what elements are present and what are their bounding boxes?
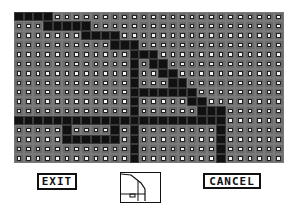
- grid-cell[interactable]: [91, 21, 101, 30]
- pixel-grid[interactable]: [14, 12, 284, 163]
- grid-cell[interactable]: [178, 116, 188, 125]
- grid-cell[interactable]: [139, 154, 149, 163]
- grid-cell[interactable]: [274, 40, 284, 49]
- grid-cell[interactable]: [235, 21, 245, 30]
- grid-cell[interactable]: [120, 116, 130, 125]
- grid-cell[interactable]: [245, 59, 255, 68]
- grid-cell[interactable]: [178, 12, 188, 21]
- grid-cell[interactable]: [81, 40, 91, 49]
- grid-cell[interactable]: [14, 144, 24, 153]
- grid-cell[interactable]: [24, 97, 34, 106]
- grid-cell[interactable]: [149, 21, 159, 30]
- grid-cell[interactable]: [81, 135, 91, 144]
- grid-cell[interactable]: [33, 78, 43, 87]
- grid-cell[interactable]: [139, 78, 149, 87]
- grid-cell[interactable]: [235, 40, 245, 49]
- grid-cell[interactable]: [274, 78, 284, 87]
- grid-cell[interactable]: [207, 59, 217, 68]
- grid-cell[interactable]: [226, 88, 236, 97]
- grid-cell[interactable]: [197, 116, 207, 125]
- grid-cell[interactable]: [91, 40, 101, 49]
- grid-cell[interactable]: [81, 31, 91, 40]
- grid-cell[interactable]: [255, 116, 265, 125]
- grid-cell[interactable]: [178, 88, 188, 97]
- grid-cell[interactable]: [207, 116, 217, 125]
- grid-cell[interactable]: [187, 59, 197, 68]
- grid-cell[interactable]: [235, 135, 245, 144]
- grid-cell[interactable]: [33, 125, 43, 134]
- grid-cell[interactable]: [178, 78, 188, 87]
- grid-cell[interactable]: [110, 116, 120, 125]
- grid-cell[interactable]: [216, 135, 226, 144]
- grid-cell[interactable]: [53, 59, 63, 68]
- grid-cell[interactable]: [14, 125, 24, 134]
- grid-cell[interactable]: [33, 59, 43, 68]
- grid-cell[interactable]: [216, 59, 226, 68]
- grid-cell[interactable]: [33, 40, 43, 49]
- grid-cell[interactable]: [62, 116, 72, 125]
- grid-cell[interactable]: [207, 78, 217, 87]
- grid-cell[interactable]: [168, 31, 178, 40]
- grid-cell[interactable]: [197, 144, 207, 153]
- grid-cell[interactable]: [216, 21, 226, 30]
- grid-cell[interactable]: [197, 31, 207, 40]
- grid-cell[interactable]: [139, 144, 149, 153]
- grid-cell[interactable]: [168, 116, 178, 125]
- grid-cell[interactable]: [72, 88, 82, 97]
- grid-cell[interactable]: [274, 88, 284, 97]
- grid-cell[interactable]: [235, 59, 245, 68]
- grid-cell[interactable]: [72, 106, 82, 115]
- grid-cell[interactable]: [14, 12, 24, 21]
- grid-cell[interactable]: [197, 12, 207, 21]
- grid-cell[interactable]: [53, 12, 63, 21]
- grid-cell[interactable]: [226, 125, 236, 134]
- grid-cell[interactable]: [53, 69, 63, 78]
- grid-cell[interactable]: [187, 40, 197, 49]
- grid-cell[interactable]: [226, 50, 236, 59]
- grid-cell[interactable]: [187, 125, 197, 134]
- grid-cell[interactable]: [235, 78, 245, 87]
- grid-cell[interactable]: [168, 78, 178, 87]
- grid-cell[interactable]: [91, 88, 101, 97]
- grid-cell[interactable]: [110, 12, 120, 21]
- grid-cell[interactable]: [130, 135, 140, 144]
- grid-cell[interactable]: [139, 116, 149, 125]
- grid-cell[interactable]: [235, 88, 245, 97]
- grid-cell[interactable]: [149, 154, 159, 163]
- grid-cell[interactable]: [139, 31, 149, 40]
- grid-cell[interactable]: [14, 97, 24, 106]
- grid-cell[interactable]: [91, 97, 101, 106]
- grid-cell[interactable]: [255, 69, 265, 78]
- grid-cell[interactable]: [24, 88, 34, 97]
- grid-cell[interactable]: [245, 88, 255, 97]
- grid-cell[interactable]: [168, 154, 178, 163]
- grid-cell[interactable]: [120, 78, 130, 87]
- grid-cell[interactable]: [101, 116, 111, 125]
- grid-cell[interactable]: [110, 97, 120, 106]
- grid-cell[interactable]: [255, 125, 265, 134]
- grid-cell[interactable]: [178, 31, 188, 40]
- grid-cell[interactable]: [187, 135, 197, 144]
- grid-cell[interactable]: [130, 97, 140, 106]
- grid-cell[interactable]: [33, 12, 43, 21]
- grid-cell[interactable]: [178, 40, 188, 49]
- grid-cell[interactable]: [53, 144, 63, 153]
- grid-cell[interactable]: [120, 50, 130, 59]
- grid-cell[interactable]: [72, 97, 82, 106]
- grid-cell[interactable]: [274, 97, 284, 106]
- grid-cell[interactable]: [207, 106, 217, 115]
- grid-cell[interactable]: [264, 97, 274, 106]
- grid-cell[interactable]: [149, 97, 159, 106]
- grid-cell[interactable]: [149, 144, 159, 153]
- grid-cell[interactable]: [245, 116, 255, 125]
- grid-cell[interactable]: [207, 97, 217, 106]
- grid-cell[interactable]: [130, 78, 140, 87]
- grid-cell[interactable]: [207, 69, 217, 78]
- grid-cell[interactable]: [53, 50, 63, 59]
- grid-cell[interactable]: [43, 50, 53, 59]
- grid-cell[interactable]: [149, 50, 159, 59]
- grid-cell[interactable]: [43, 106, 53, 115]
- grid-cell[interactable]: [226, 40, 236, 49]
- grid-cell[interactable]: [255, 50, 265, 59]
- grid-cell[interactable]: [187, 88, 197, 97]
